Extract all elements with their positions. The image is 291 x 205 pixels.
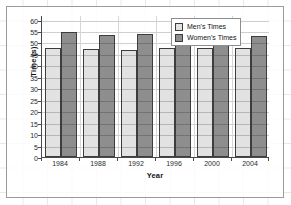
x-tick-label: 1988	[90, 160, 106, 167]
chart-figure: Time (s) 051015202530354045505560 198419…	[6, 6, 284, 198]
bar-men-1984	[45, 48, 61, 157]
x-tick-label: 2004	[242, 160, 258, 167]
bar-inner-gridlines	[84, 50, 98, 156]
y-tick-label: 15	[30, 120, 38, 127]
bar-inner-gridlines	[252, 37, 266, 156]
bar-inner-gridlines	[160, 49, 174, 156]
legend-item-women: Women's Times	[175, 32, 236, 43]
legend-swatch-women-icon	[175, 34, 183, 42]
legend-swatch-men-icon	[175, 23, 183, 31]
y-axis-ticks: 051015202530354045505560	[7, 16, 41, 158]
y-tick-label: 25	[30, 97, 38, 104]
bar-women-2004	[251, 36, 267, 157]
x-tick-label: 1996	[166, 160, 182, 167]
y-tick-label: 20	[30, 109, 38, 116]
bar-inner-gridlines	[176, 37, 190, 156]
bar-men-2004	[235, 48, 251, 157]
bar-inner-gridlines	[138, 35, 152, 156]
legend-label-women: Women's Times	[187, 34, 236, 41]
bar-inner-gridlines	[122, 51, 136, 156]
y-tick-label: 40	[30, 63, 38, 70]
bar-men-2000	[197, 48, 213, 157]
bar-women-1984	[61, 32, 77, 157]
bar-men-1988	[83, 49, 99, 157]
y-tick-label: 35	[30, 74, 38, 81]
y-tick-label: 45	[30, 51, 38, 58]
y-tick-label: 10	[30, 132, 38, 139]
bar-inner-gridlines	[46, 49, 60, 156]
x-tick-label: 1984	[52, 160, 68, 167]
bar-inner-gridlines	[198, 49, 212, 156]
bar-men-1996	[159, 48, 175, 157]
y-tick-label: 60	[30, 17, 38, 24]
bar-inner-gridlines	[100, 36, 114, 156]
bar-inner-gridlines	[236, 49, 250, 156]
x-tick-label: 1992	[128, 160, 144, 167]
bar-women-2000	[213, 36, 229, 157]
y-tick-label: 50	[30, 40, 38, 47]
bar-women-1996	[175, 36, 191, 157]
x-axis-title: Year	[41, 171, 269, 180]
y-tick-label: 55	[30, 29, 38, 36]
legend-label-men: Men's Times	[187, 23, 226, 30]
bar-inner-gridlines	[214, 37, 228, 156]
bar-women-1992	[137, 34, 153, 157]
bar-men-1992	[121, 50, 137, 157]
x-tick-label: 2000	[204, 160, 220, 167]
y-tick-label: 30	[30, 86, 38, 93]
bar-inner-gridlines	[62, 33, 76, 156]
x-axis-ticks: 198419881992199620002004	[41, 159, 269, 171]
chart-legend: Men's Times Women's Times	[171, 18, 241, 46]
legend-item-men: Men's Times	[175, 21, 236, 32]
bar-women-1988	[99, 35, 115, 157]
